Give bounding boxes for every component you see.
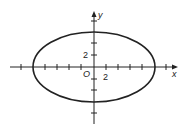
y-axis-label: y (97, 10, 103, 20)
x-tick-label: 2 (103, 72, 108, 82)
origin-label: O (83, 69, 90, 79)
y-axis-arrow-icon (92, 11, 97, 17)
ellipse-diagram: y x O 2 2 (0, 0, 189, 132)
y-tick-label: 2 (83, 50, 88, 60)
x-axis-label: x (171, 69, 177, 79)
